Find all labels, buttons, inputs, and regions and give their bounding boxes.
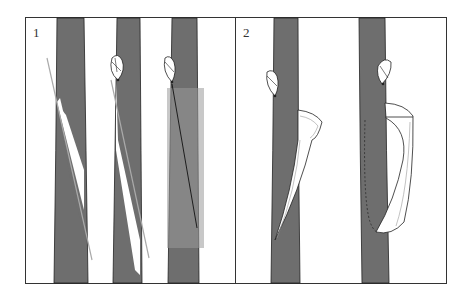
budding-diagram: [0, 0, 474, 297]
highlight-region: [167, 88, 204, 248]
stem-4: [271, 18, 300, 283]
panel-label-2: 2: [243, 25, 250, 41]
panel-label-1: 1: [33, 25, 40, 41]
stem-5: [359, 18, 389, 283]
